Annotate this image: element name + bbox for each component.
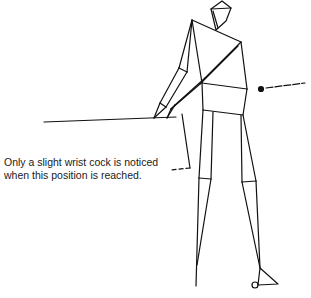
caption-line-1: Only a slight wrist cock is noticed	[4, 156, 158, 169]
lead-arm	[154, 20, 192, 118]
caption: Only a slight wrist cock is noticed when…	[4, 156, 158, 182]
legs	[196, 110, 278, 288]
caption-line-2: when this position is reached.	[4, 169, 158, 182]
caption-leader	[170, 114, 190, 170]
club-shaft	[44, 117, 176, 122]
trail-arm	[167, 42, 241, 118]
pointer-dot-annotation	[259, 83, 306, 92]
torso	[192, 20, 247, 115]
head	[211, 1, 231, 30]
golfer-diagram	[0, 0, 311, 298]
